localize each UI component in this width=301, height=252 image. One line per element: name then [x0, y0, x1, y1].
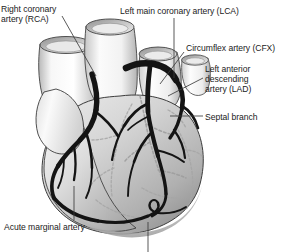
label-septal-branch: Septal branch	[205, 112, 257, 122]
label-left-main-coronary-artery: Left main coronary artery (LCA)	[120, 6, 239, 16]
heart-illustration-svg	[0, 0, 301, 252]
heart-coronary-anatomy-figure: Right coronary artery (RCA) Left main co…	[0, 0, 301, 252]
label-right-coronary-artery: Right coronary artery (RCA)	[1, 4, 56, 24]
label-acute-marginal-artery: Acute marginal artery	[4, 222, 85, 232]
label-left-anterior-descending-artery: Left anterior descending artery (LAD)	[205, 64, 251, 95]
label-circumflex-artery: Circumflex artery (CFX)	[186, 43, 275, 53]
